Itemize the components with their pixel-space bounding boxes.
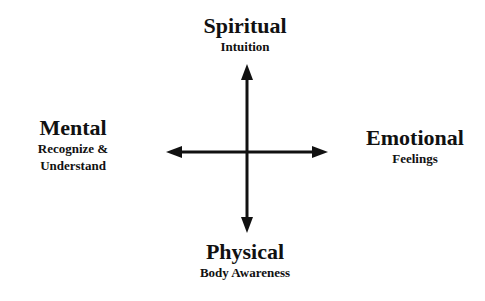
node-emotional: Emotional Feelings — [345, 126, 485, 167]
node-subtitle: Body Awareness — [165, 264, 325, 281]
node-subtitle-line2: Understand — [0, 157, 146, 174]
node-physical: Physical Body Awareness — [165, 240, 325, 281]
node-subtitle-line1: Recognize & — [0, 140, 146, 157]
arrow-left-icon — [166, 146, 182, 158]
node-title: Spiritual — [180, 14, 310, 38]
node-spiritual: Spiritual Intuition — [180, 14, 310, 55]
node-title: Mental — [0, 116, 146, 140]
node-mental: Mental Recognize & Understand — [0, 116, 146, 174]
node-subtitle: Intuition — [180, 38, 310, 55]
node-subtitle: Feelings — [345, 150, 485, 167]
node-title: Emotional — [345, 126, 485, 150]
arrow-down-icon — [241, 217, 253, 233]
node-title: Physical — [165, 240, 325, 264]
arrow-right-icon — [312, 146, 328, 158]
arrow-up-icon — [241, 64, 253, 80]
